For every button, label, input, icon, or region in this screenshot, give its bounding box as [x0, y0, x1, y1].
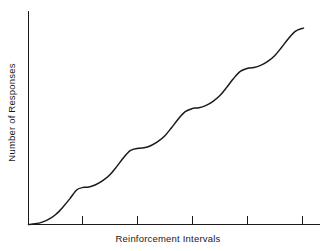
- y-axis-label: Number of Responses: [6, 63, 17, 161]
- response-curve: [29, 28, 304, 224]
- chart-figure: Number of Responses Reinforcement Interv…: [0, 0, 336, 251]
- cumulative-record-plot: [0, 0, 336, 251]
- y-axis-label-container: Number of Responses: [0, 0, 22, 224]
- x-axis-label: Reinforcement Intervals: [0, 233, 336, 244]
